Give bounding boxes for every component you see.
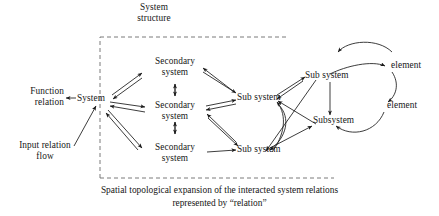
arrow-secondary-bottom-to-system <box>106 113 138 150</box>
sub-system-lower-node: Sub system <box>237 144 281 155</box>
curve-element-top-to-element-bottom <box>388 72 396 102</box>
system-structure-title: System structure <box>118 2 190 24</box>
caption-line-1: Spatial topological expansion of the int… <box>0 184 439 196</box>
arrow-system-to-secondary-top <box>112 73 142 95</box>
element-top-node: element <box>391 60 421 71</box>
secondary-system-mid-node: Secondary system <box>141 100 209 122</box>
arrow-secondary-top-to-system <box>113 78 142 99</box>
diagram-canvas: System structure Function relation Syste… <box>0 0 439 216</box>
arrow-secondary-mid-to-system <box>110 106 145 112</box>
input-relation-flow-label: Input relation flow <box>6 140 84 162</box>
subsystem-right-node: Subsystem <box>313 115 354 126</box>
caption-line-2: represented by “relation” <box>0 197 439 209</box>
system-node: System <box>77 93 105 104</box>
arrow-secondary-mid-to-subsystem-lower <box>208 118 238 146</box>
sub-system-upper-node: Sub system <box>237 92 281 103</box>
secondary-system-bottom-node: Secondary system <box>141 142 209 164</box>
secondary-system-top-node: Secondary system <box>141 56 209 78</box>
sub-system-right-node: Sub system <box>305 70 349 81</box>
function-relation-label: Function relation <box>6 86 64 108</box>
element-bottom-node: element <box>387 100 417 111</box>
arrow-subsystem-upper-to-subsystem-right <box>277 77 305 95</box>
curve-element-top-to-subsystem-right <box>338 42 392 52</box>
arrow-secondary-bottom-to-subsystem-lower <box>207 150 236 152</box>
arrow-system-to-secondary-bottom <box>108 110 142 148</box>
arrow-system-to-secondary-mid <box>110 102 145 107</box>
arrow-subsystem-lower-to-secondary-mid <box>207 114 236 142</box>
arrow-subsystem-right-to-subsystem-lower <box>266 80 316 151</box>
